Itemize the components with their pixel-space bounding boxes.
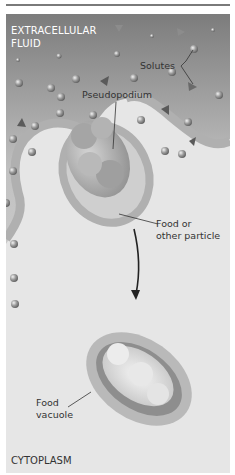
pseudopodium-label: Pseudopodium (82, 89, 152, 100)
extracellular-fluid-label-line2: FLUID (11, 38, 41, 49)
cytoplasm-label: CYTOPLASM (11, 455, 72, 466)
extracellular-fluid-label: EXTRACELLULAR (11, 25, 97, 36)
top-rule (6, 4, 230, 6)
phagocytosis-diagram: EXTRACELLULAR FLUID Solutes Pseudopodium… (6, 14, 230, 473)
solutes-label: Solutes (140, 60, 175, 71)
food-vacuole-label-line1: Food (36, 397, 59, 408)
food-particle-label-line1: Food or (156, 218, 192, 229)
food-vacuole-label-line2: vacuole (36, 409, 73, 420)
food-particle-label-line2: other particle (156, 230, 220, 241)
